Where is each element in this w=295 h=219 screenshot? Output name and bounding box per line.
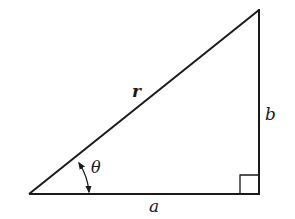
opposite-label: b [265,104,276,124]
right-triangle-diagram: r b a θ [0,0,295,219]
right-angle-marker [240,175,259,194]
hypotenuse-side [29,10,259,194]
hypotenuse-label: r [132,81,142,101]
angle-arc [79,163,89,192]
adjacent-label: a [149,196,159,216]
angle-label: θ [91,158,101,177]
